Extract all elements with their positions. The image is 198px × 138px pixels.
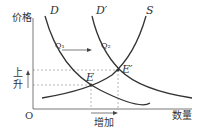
x-axis-label: 数量 (172, 111, 192, 121)
point-label-e: E (86, 72, 94, 83)
price-rise-label-top: 上 (13, 68, 23, 78)
shift-arrow-head (87, 48, 92, 52)
curve-label-d: D (50, 5, 59, 16)
price-up-arrow-head (26, 70, 30, 75)
demand-curve-d (45, 16, 150, 105)
point-label-q1: Q₁ (55, 42, 65, 50)
price-rise-label-bottom: 升 (13, 80, 23, 90)
supply-curve-s (42, 16, 146, 98)
quantity-increase-arrow-head (113, 111, 118, 115)
point-label-q2: Q₂ (101, 42, 111, 50)
point-label-e-prime: E′ (122, 64, 133, 75)
y-axis-label: 价格 (12, 13, 32, 23)
curve-label-d-prime: D′ (96, 5, 107, 16)
quantity-increase-label: 增加 (94, 118, 114, 128)
curve-label-s: S (146, 5, 154, 16)
point-e-prime (117, 69, 120, 72)
origin-label: O (25, 111, 33, 121)
